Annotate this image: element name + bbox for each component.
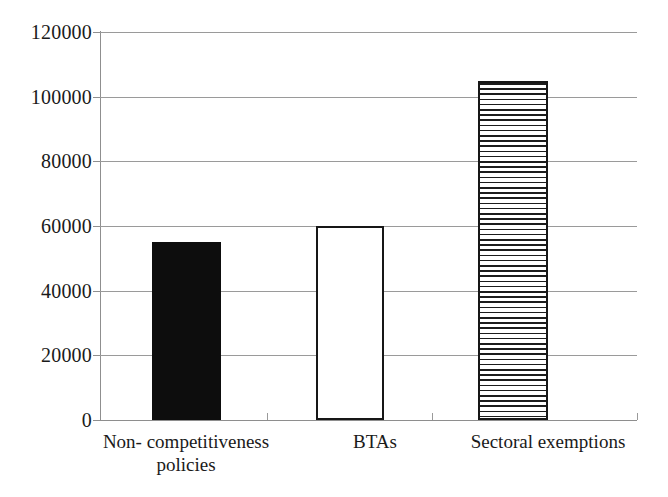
- x-label-line: Sectoral exemptions: [433, 430, 663, 453]
- x-label-line: BTAs: [295, 430, 455, 453]
- bar-chart-figure: 020000400006000080000100000120000 Non- c…: [0, 0, 668, 497]
- x-label-line: policies: [61, 453, 311, 476]
- x-category-label-2: BTAs: [295, 430, 455, 453]
- x-label-line: Non- competitiveness: [61, 430, 311, 453]
- x-category-label-3: Sectoral exemptions: [433, 430, 663, 453]
- x-category-label-1: Non- competitivenesspolicies: [61, 430, 311, 476]
- x-axis-category-labels: Non- competitivenesspoliciesBTAsSectoral…: [0, 0, 668, 497]
